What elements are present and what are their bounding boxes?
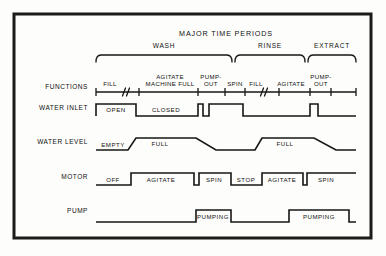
- waveforms-group: OPENCLOSEDEMPTYFULLFULLOFFAGITATESPINSTO…: [96, 104, 356, 222]
- period-label-rinse: RINSE: [258, 42, 282, 49]
- waveform-motor: OFFAGITATESPINSTOPAGITATESPIN: [96, 173, 356, 185]
- function-label-3: PUMP-: [200, 73, 221, 80]
- timing-diagram-canvas: MAJOR TIME PERIODS WASHRINSEEXTRACT FUNC…: [0, 0, 386, 256]
- function-label-4: OUT: [204, 80, 218, 87]
- function-label-7: AGITATE: [277, 80, 305, 87]
- row-label-motor: MOTOR: [61, 173, 88, 180]
- function-label-8: PUMP-: [310, 73, 331, 80]
- row-label-water-inlet: WATER INLET: [39, 104, 88, 111]
- waveform-path-water-level: [96, 138, 356, 150]
- period-wash: WASH: [96, 42, 232, 62]
- waveform-water-inlet: OPENCLOSED: [96, 104, 356, 116]
- row-label-water-level: WATER LEVEL: [37, 138, 88, 145]
- state-label-motor-1: AGITATE: [147, 176, 176, 183]
- waveform-water-level: EMPTYFULLFULL: [96, 138, 356, 150]
- row-labels-group: FUNCTIONSWATER INLETWATER LEVELMOTORPUMP: [37, 83, 88, 214]
- period-rinse: RINSE: [235, 42, 305, 62]
- function-label-6: FILL: [249, 80, 263, 87]
- state-label-motor-3: STOP: [237, 176, 255, 183]
- state-label-water-inlet-1: CLOSED: [152, 106, 180, 113]
- waveform-pump: PUMPINGPUMPING: [96, 210, 356, 222]
- function-label-9: OUT: [314, 80, 328, 87]
- state-label-water-level-2: FULL: [277, 140, 294, 147]
- state-label-motor-5: SPIN: [318, 176, 334, 183]
- period-bracket-wash: [96, 55, 232, 62]
- period-bracket-rinse: [235, 55, 305, 62]
- row-label-pump: PUMP: [67, 207, 88, 214]
- row-label-functions: FUNCTIONS: [45, 83, 88, 90]
- waveform-path-water-inlet: [96, 104, 356, 116]
- period-label-wash: WASH: [153, 42, 176, 49]
- period-bracket-extract: [308, 55, 356, 62]
- state-label-pump-0: PUMPING: [197, 213, 229, 220]
- timing-diagram-page: MAJOR TIME PERIODS WASHRINSEEXTRACT FUNC…: [0, 0, 386, 256]
- function-label-1: AGITATE: [156, 73, 184, 80]
- state-label-water-inlet-0: OPEN: [106, 106, 125, 113]
- period-label-extract: EXTRACT: [314, 42, 350, 49]
- state-label-motor-4: AGITATE: [268, 176, 297, 183]
- state-label-pump-1: PUMPING: [303, 213, 335, 220]
- state-label-water-level-0: EMPTY: [101, 141, 125, 148]
- function-label-0: FILL: [103, 80, 117, 87]
- function-label-5: SPIN: [227, 80, 243, 87]
- period-extract: EXTRACT: [308, 42, 356, 62]
- state-label-water-level-1: FULL: [152, 140, 169, 147]
- state-label-motor-0: OFF: [106, 176, 120, 183]
- functions-axis-group: FILLAGITATEMACHINE FULLPUMP-OUTSPINFILLA…: [96, 73, 356, 96]
- function-label-2: MACHINE FULL: [146, 80, 195, 87]
- major-time-periods-group: WASHRINSEEXTRACT: [96, 42, 356, 62]
- state-label-motor-2: SPIN: [206, 176, 222, 183]
- diagram-title: MAJOR TIME PERIODS: [179, 29, 273, 38]
